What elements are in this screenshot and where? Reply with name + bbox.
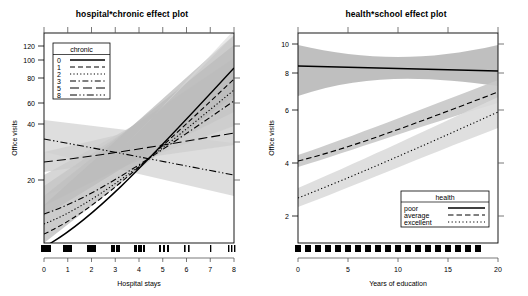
right-y-ticks [292,44,298,216]
left-legend-label-8[interactable]: 8 [57,92,61,99]
right-x-axis [298,258,498,262]
right-ytick-10: 10 [281,41,289,48]
left-xtick-4: 4 [137,266,141,273]
right-yaxis-label: Office visits [268,120,275,156]
left-ytick-40: 40 [27,121,35,128]
right-legend-title: health [435,194,454,201]
left-plot-canvas: 120 100 80 60 40 20 0 1 2 3 4 5 6 7 8 Ho… [0,0,264,296]
left-ytick-60: 60 [27,100,35,107]
left-ytick-20: 20 [27,177,35,184]
left-xtick-7: 7 [208,266,212,273]
panel-hospital-chronic: hospital*chronic effect plot [0,0,264,296]
left-rug-marks [41,245,235,252]
left-legend[interactable]: chronic 0 1 2 3 5 8 [53,43,110,99]
left-xtick-1: 1 [66,266,70,273]
left-y-ticks [38,46,44,180]
left-legend-label-1[interactable]: 1 [57,64,61,71]
right-right-ticks [498,44,504,216]
right-plot-canvas: 10 8 6 4 2 0 5 10 15 20 Years of educati… [264,0,528,296]
left-x-axis [44,258,234,262]
left-ytick-100: 100 [23,57,35,64]
right-xtick-10: 10 [394,266,402,273]
right-ytick-2: 2 [285,213,289,220]
left-xaxis-label: Hospital stays [117,280,161,288]
left-yaxis-label: Office visits [11,120,18,156]
left-xtick-6: 6 [185,266,189,273]
right-legend[interactable]: health poor average excellent [401,191,489,227]
left-xtick-5: 5 [161,266,165,273]
right-ytick-8: 8 [285,70,289,77]
left-legend-label-2[interactable]: 2 [57,71,61,78]
right-legend-label-excellent[interactable]: excellent [404,219,432,226]
panel-health-school: health*school effect plot [264,0,528,296]
left-xtick-8: 8 [232,266,236,273]
right-xtick-20: 20 [494,266,502,273]
right-top-ticks [298,27,498,33]
right-ytick-4: 4 [285,160,289,167]
right-xaxis-label: Years of education [369,280,427,287]
effects-plot-figure: hospital*chronic effect plot [0,0,528,296]
left-ytick-80: 80 [27,75,35,82]
left-legend-label-0[interactable]: 0 [57,57,61,64]
left-top-ticks [44,27,234,33]
right-rug-marks [295,245,481,252]
left-legend-title: chronic [70,46,93,53]
right-xtick-15: 15 [444,266,452,273]
left-xtick-0: 0 [42,266,46,273]
left-xtick-3: 3 [113,266,117,273]
left-xtick-2: 2 [90,266,94,273]
left-legend-label-3[interactable]: 3 [57,78,61,85]
right-xtick-0: 0 [296,266,300,273]
left-right-ticks [234,46,240,180]
right-xtick-5: 5 [346,266,350,273]
left-legend-label-5[interactable]: 5 [57,85,61,92]
right-ytick-6: 6 [285,107,289,114]
left-ytick-120: 120 [23,43,35,50]
